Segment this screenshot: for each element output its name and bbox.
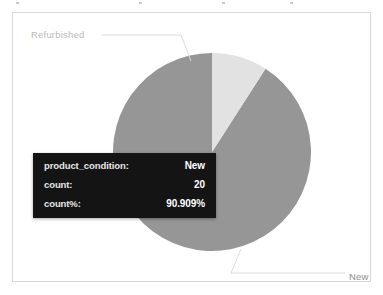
pie-label-new: New <box>349 271 369 282</box>
pie-label-refurbished: Refurbished <box>31 29 84 40</box>
top-edge-artifacts <box>0 0 383 11</box>
tooltip-value-count-percent: 90.909% <box>156 199 205 209</box>
tooltip-key-count: count: <box>44 180 72 190</box>
tooltip-row: product_condition: New <box>44 161 205 171</box>
tooltip-value-product-condition: New <box>175 161 205 171</box>
leader-line-refurbished <box>101 35 191 61</box>
tooltip-key-count-percent: count%: <box>44 199 81 209</box>
pie-chart-panel: Refurbished New product_condition: New c… <box>12 12 371 282</box>
pie-slice-new[interactable] <box>113 53 311 251</box>
pie-chart-svg[interactable] <box>13 13 371 282</box>
tooltip-key-product-condition: product_condition: <box>44 161 129 171</box>
tooltip-row: count: 20 <box>44 180 205 190</box>
tooltip-row: count%: 90.909% <box>44 199 205 209</box>
tooltip-value-count: 20 <box>184 180 205 190</box>
chart-tooltip: product_condition: New count: 20 count%:… <box>33 153 216 218</box>
leader-line-new <box>231 249 345 273</box>
